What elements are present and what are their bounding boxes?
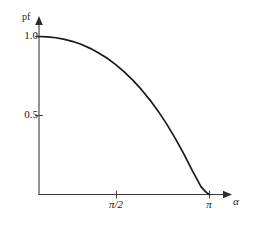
pf-curve [39,37,210,195]
x-tick-label-pi: π [201,199,217,210]
chart-figure: pf α 1.0 0.5 π/2 π [0,0,258,227]
y-axis-arrow-icon [35,16,43,25]
y-tick-label-0-5: 0.5 [12,109,38,120]
x-tick-label-half-pi: π/2 [104,199,128,210]
plot-area [0,0,258,227]
y-tick-label-1-0: 1.0 [12,30,38,41]
x-axis-label: α [233,196,239,207]
y-axis-label: pf [22,12,30,22]
x-axis-arrow-icon [223,191,232,199]
